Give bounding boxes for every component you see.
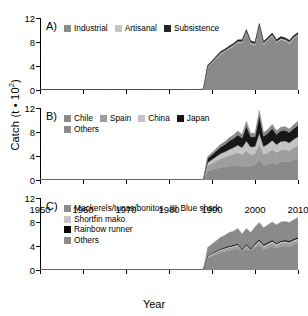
x-tick — [83, 270, 84, 274]
x-tick — [83, 90, 84, 94]
x-tick — [169, 270, 170, 274]
x-tick — [169, 90, 170, 94]
figure: Catch (t • 102) A) IndustrialArtisanalSu… — [0, 0, 308, 316]
legend-label: Spain — [110, 113, 131, 123]
y-tick-label: 0 — [30, 175, 35, 186]
legend-swatch-icon — [177, 115, 184, 122]
x-tick — [169, 180, 170, 184]
legend-swatch-icon — [64, 25, 71, 32]
legend-item: Others — [64, 124, 99, 135]
legend-item: Others — [64, 235, 99, 246]
panel-b-legend: ChileSpainChinaJapanOthers — [64, 113, 294, 134]
y-tick — [36, 246, 40, 247]
y-tick — [36, 156, 40, 157]
legend-item: Subsistence — [164, 23, 219, 34]
y-tick-label: 12 — [24, 193, 35, 204]
legend-label: Rainbow runner — [74, 224, 133, 234]
legend-label: Japan — [187, 113, 210, 123]
legend-swatch-icon — [64, 205, 71, 212]
x-tick-label: 2000 — [244, 204, 265, 215]
y-tick — [36, 108, 40, 109]
legend-label: Others — [74, 235, 99, 245]
legend-label: Others — [74, 124, 99, 134]
x-tick — [255, 270, 256, 274]
legend-label: Chile — [74, 113, 93, 123]
legend-item: Spain — [100, 113, 131, 124]
y-tick-label: 0 — [30, 85, 35, 96]
y-tick-label: 8 — [30, 217, 35, 228]
y-tick — [36, 42, 40, 43]
legend-label: Industrial — [74, 23, 108, 33]
legend-label: Subsistence — [174, 23, 219, 33]
panel-a-legend: IndustrialArtisanalSubsistence — [64, 23, 294, 34]
x-tick — [83, 180, 84, 184]
panel-b: B) ChileSpainChinaJapanOthers 04812 — [40, 108, 298, 180]
panel-a-letter: A) — [46, 20, 57, 32]
legend-item: Shortfin mako — [64, 214, 125, 225]
x-tick — [255, 90, 256, 94]
legend-label: China — [148, 113, 170, 123]
x-tick-label: 1970 — [115, 204, 136, 215]
area-series — [40, 158, 298, 180]
panel-b-letter: B) — [46, 110, 57, 122]
legend-item: Industrial — [64, 23, 108, 34]
x-tick — [212, 180, 213, 184]
legend-row: IndustrialArtisanalSubsistence — [64, 23, 294, 34]
legend-item: China — [138, 113, 170, 124]
legend-item: Japan — [177, 113, 210, 124]
legend-label: Artisanal — [125, 23, 157, 33]
y-tick-label: 0 — [30, 265, 35, 276]
legend-swatch-icon — [64, 226, 71, 233]
legend-row: Shortfin mako — [64, 214, 294, 225]
legend-row: Rainbow runner — [64, 224, 294, 235]
x-tick — [126, 90, 127, 94]
panel-c: C) Mackerels/tunas/bonitosBlue sharkShor… — [40, 198, 298, 270]
legend-swatch-icon — [100, 115, 107, 122]
x-tick-label: 1950 — [29, 204, 50, 215]
y-tick-label: 8 — [30, 37, 35, 48]
x-tick-label: 2010 — [287, 204, 308, 215]
legend-row: ChileSpainChinaJapan — [64, 113, 294, 124]
x-tick-label: 1980 — [158, 204, 179, 215]
legend-swatch-icon — [164, 25, 171, 32]
x-tick — [298, 270, 299, 274]
legend-swatch-icon — [64, 216, 71, 223]
area-series — [40, 244, 298, 270]
panel-a: A) IndustrialArtisanalSubsistence 04812 — [40, 18, 298, 90]
y-tick-label: 4 — [30, 61, 35, 72]
x-tick — [212, 90, 213, 94]
legend-swatch-icon — [138, 115, 145, 122]
y-tick-label: 12 — [24, 13, 35, 24]
y-tick-label: 12 — [24, 103, 35, 114]
legend-row: Others — [64, 124, 294, 135]
x-tick — [40, 180, 41, 184]
y-tick — [36, 66, 40, 67]
x-tick — [40, 270, 41, 274]
x-tick — [40, 90, 41, 94]
legend-swatch-icon — [64, 237, 71, 244]
legend-item: Artisanal — [115, 23, 157, 34]
y-axis-label: Catch (t • 102) — [7, 70, 21, 160]
area-series — [40, 26, 298, 90]
x-tick — [126, 270, 127, 274]
x-tick — [126, 180, 127, 184]
y-tick — [36, 222, 40, 223]
x-axis-label: Year — [0, 298, 308, 310]
legend-item: Chile — [64, 113, 93, 124]
legend-row: Others — [64, 235, 294, 246]
legend-label: Shortfin mako — [74, 214, 125, 224]
y-tick-label: 4 — [30, 151, 35, 162]
x-tick-label: 1990 — [201, 204, 222, 215]
y-tick — [36, 132, 40, 133]
x-tick — [298, 90, 299, 94]
legend-item: Rainbow runner — [64, 224, 133, 235]
x-tick — [255, 180, 256, 184]
x-tick-label: 1960 — [72, 204, 93, 215]
legend-swatch-icon — [64, 115, 71, 122]
x-tick — [212, 270, 213, 274]
y-tick — [36, 18, 40, 19]
legend-swatch-icon — [64, 126, 71, 133]
x-tick — [298, 180, 299, 184]
y-tick — [36, 198, 40, 199]
legend-swatch-icon — [115, 25, 122, 32]
